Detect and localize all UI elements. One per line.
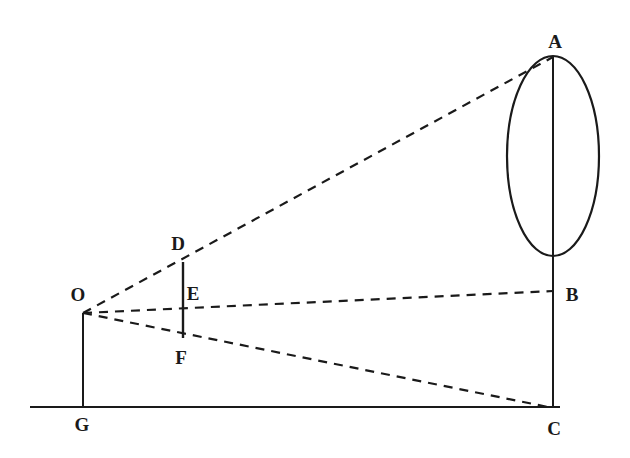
point-label-O: O xyxy=(71,285,86,304)
dashed-rays-group xyxy=(83,57,553,408)
point-label-C: C xyxy=(547,419,561,438)
point-label-G: G xyxy=(75,415,90,434)
ray-O-to-C xyxy=(83,313,553,408)
point-label-B: B xyxy=(566,285,579,304)
point-label-F: F xyxy=(175,348,187,367)
point-label-E: E xyxy=(187,284,200,303)
diagram-canvas xyxy=(0,0,630,458)
ray-O-to-B xyxy=(83,291,553,313)
point-label-A: A xyxy=(548,32,562,51)
point-label-D: D xyxy=(171,234,185,253)
ray-O-to-A xyxy=(83,57,553,313)
geometry-diagram: A B C D E F G O xyxy=(0,0,630,458)
